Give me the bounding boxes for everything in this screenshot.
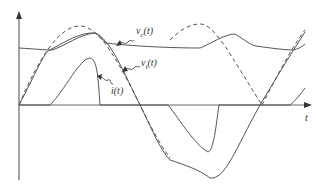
i-label: i(t) — [111, 85, 124, 97]
vc-label: vc(t) — [136, 25, 154, 39]
x-axis-arrow-icon — [304, 102, 312, 108]
x-axis-label: t — [305, 112, 308, 123]
i-leader — [100, 78, 113, 85]
vc-arrow-icon — [116, 40, 122, 46]
vc-curve — [19, 33, 305, 50]
y-axis-arrow-icon — [16, 11, 22, 19]
vi-label: vi(t) — [141, 57, 158, 71]
waveform-diagram: t vc(t) vi(t) i(t) — [0, 0, 325, 188]
